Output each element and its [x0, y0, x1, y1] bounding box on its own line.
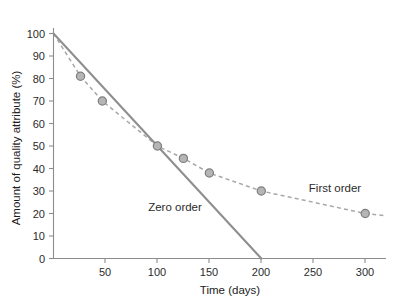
data-point-marker — [257, 187, 265, 195]
y-tick-label: 20 — [33, 208, 45, 220]
y-tick-labels: 100 90 80 70 60 50 40 30 20 10 0 — [27, 28, 45, 265]
data-point-marker — [98, 97, 106, 105]
data-point-marker — [179, 154, 187, 162]
y-tick-label: 50 — [33, 140, 45, 152]
y-tick-label: 30 — [33, 185, 45, 197]
x-tick-label: 100 — [148, 266, 166, 278]
chart-plot-area: 100 90 80 70 60 50 40 30 20 10 0 50 100 … — [0, 0, 400, 301]
x-tick-labels: 50 100 150 200 250 300 — [99, 266, 374, 278]
y-tick-label: 90 — [33, 50, 45, 62]
x-axis-title: Time (days) — [200, 284, 260, 296]
y-tick-label: 0 — [39, 253, 45, 265]
y-tick-label: 60 — [33, 118, 45, 130]
x-tick-label: 50 — [99, 266, 111, 278]
chart-container: 100 90 80 70 60 50 40 30 20 10 0 50 100 … — [0, 0, 400, 301]
y-tick-label: 70 — [33, 95, 45, 107]
data-point-marker — [205, 169, 213, 177]
y-tick-label: 40 — [33, 163, 45, 175]
x-tick-label: 200 — [252, 266, 270, 278]
x-tick-marks — [105, 259, 365, 264]
y-axis-title: Amount of quality attribute (%) — [10, 70, 22, 225]
x-tick-label: 150 — [200, 266, 218, 278]
zero-order-annotation: Zero order — [148, 201, 202, 213]
data-point-marker — [153, 142, 161, 150]
y-tick-label: 10 — [33, 230, 45, 242]
x-tick-label: 300 — [356, 266, 374, 278]
y-tick-label: 80 — [33, 73, 45, 85]
axis-group — [53, 28, 386, 259]
data-point-markers — [76, 72, 369, 217]
y-tick-label: 100 — [27, 28, 45, 40]
data-point-marker — [361, 209, 369, 217]
y-tick-marks — [49, 34, 54, 259]
x-tick-label: 250 — [304, 266, 322, 278]
data-point-marker — [76, 72, 84, 80]
first-order-annotation: First order — [309, 182, 362, 194]
